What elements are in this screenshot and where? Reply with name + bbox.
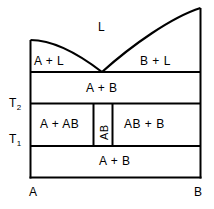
temperature-tick-t2: T2 (9, 97, 21, 114)
phase-diagram: L A + L B + L A + B A + AB AB AB + B A +… (0, 0, 214, 209)
phase-diagram-canvas (0, 0, 214, 209)
temperature-tick-t1: T1 (9, 133, 21, 150)
temperature-tick-t1-text: T (9, 132, 17, 146)
region-label-a-plus-b-upper: A + B (86, 82, 118, 94)
region-label-liquid: L (98, 21, 105, 33)
region-label-b-plus-liquid: B + L (140, 55, 171, 67)
temperature-tick-t2-subscript: 2 (17, 103, 21, 112)
axis-label-b: B (194, 186, 203, 198)
region-label-a-plus-liquid: A + L (34, 55, 64, 67)
temperature-tick-t1-subscript: 1 (17, 139, 21, 148)
temperature-tick-t2-text: T (9, 96, 17, 110)
region-label-ab-plus-b: AB + B (124, 118, 165, 130)
region-label-ab: AB (99, 124, 110, 140)
axis-label-a: A (29, 186, 38, 198)
region-label-a-plus-b-lower: A + B (99, 155, 131, 167)
region-label-a-plus-ab: A + AB (40, 118, 79, 130)
